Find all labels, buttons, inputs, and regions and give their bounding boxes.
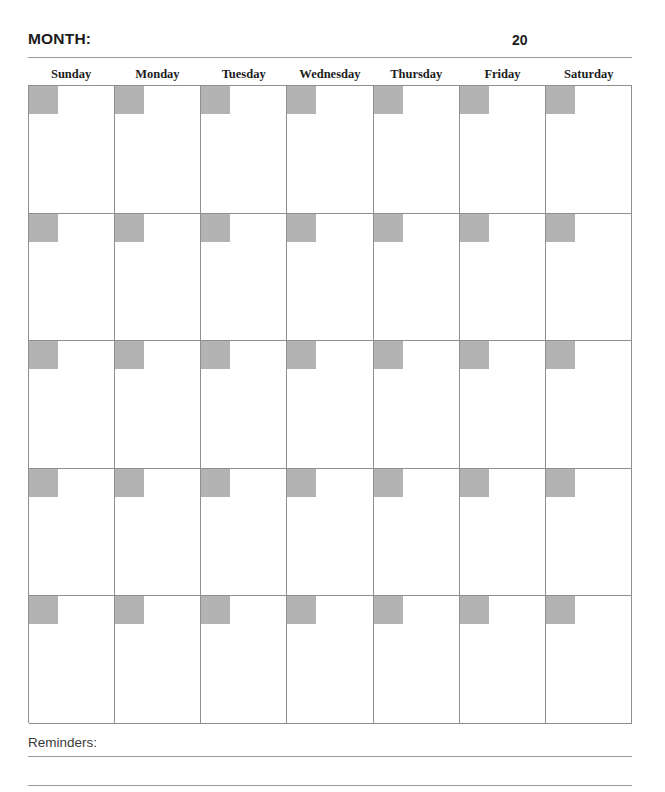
date-number-box[interactable] xyxy=(460,596,489,624)
calendar-day-cell[interactable] xyxy=(374,596,460,724)
calendar-day-cell[interactable] xyxy=(287,596,373,724)
date-number-box[interactable] xyxy=(115,596,144,624)
calendar-day-cell[interactable] xyxy=(29,214,115,342)
date-number-box[interactable] xyxy=(115,86,144,114)
date-number-box[interactable] xyxy=(374,596,403,624)
date-number-box[interactable] xyxy=(201,596,230,624)
weekday-header-friday: Friday xyxy=(459,64,545,85)
date-number-box[interactable] xyxy=(460,86,489,114)
calendar-week-row xyxy=(29,341,632,469)
date-number-box[interactable] xyxy=(374,469,403,497)
date-number-box[interactable] xyxy=(115,341,144,369)
calendar-day-cell[interactable] xyxy=(546,469,632,597)
calendar-day-cell[interactable] xyxy=(201,469,287,597)
date-number-box[interactable] xyxy=(374,341,403,369)
calendar-week-row xyxy=(29,469,632,597)
calendar-day-cell[interactable] xyxy=(115,86,201,214)
calendar-day-cell[interactable] xyxy=(460,469,546,597)
calendar-day-cell[interactable] xyxy=(374,341,460,469)
date-number-box[interactable] xyxy=(460,341,489,369)
calendar-page: MONTH: 20 SundayMondayTuesdayWednesdayTh… xyxy=(0,0,665,792)
weekday-header-row: SundayMondayTuesdayWednesdayThursdayFrid… xyxy=(28,64,632,85)
year-prefix-label: 20 xyxy=(512,32,528,48)
calendar-day-cell[interactable] xyxy=(374,214,460,342)
calendar-day-cell[interactable] xyxy=(374,86,460,214)
date-number-box[interactable] xyxy=(29,596,58,624)
date-number-box[interactable] xyxy=(115,214,144,242)
date-number-box[interactable] xyxy=(460,214,489,242)
weekday-header-wednesday: Wednesday xyxy=(287,64,373,85)
calendar-week-row xyxy=(29,596,632,724)
calendar-day-cell[interactable] xyxy=(115,469,201,597)
month-label: MONTH: xyxy=(28,30,91,48)
calendar-day-cell[interactable] xyxy=(115,341,201,469)
date-number-box[interactable] xyxy=(287,596,316,624)
date-number-box[interactable] xyxy=(201,469,230,497)
calendar-day-cell[interactable] xyxy=(287,214,373,342)
date-number-box[interactable] xyxy=(287,86,316,114)
date-number-box[interactable] xyxy=(115,469,144,497)
reminders-label: Reminders: xyxy=(28,735,97,750)
calendar-grid xyxy=(28,85,632,723)
date-number-box[interactable] xyxy=(287,469,316,497)
date-number-box[interactable] xyxy=(29,214,58,242)
date-number-box[interactable] xyxy=(287,341,316,369)
calendar-day-cell[interactable] xyxy=(460,214,546,342)
weekday-header-sunday: Sunday xyxy=(28,64,114,85)
calendar-day-cell[interactable] xyxy=(201,341,287,469)
calendar-day-cell[interactable] xyxy=(460,596,546,724)
calendar-day-cell[interactable] xyxy=(546,214,632,342)
date-number-box[interactable] xyxy=(546,341,575,369)
reminders-write-line-2[interactable] xyxy=(28,785,632,786)
weekday-header-saturday: Saturday xyxy=(546,64,632,85)
calendar-day-cell[interactable] xyxy=(460,341,546,469)
date-number-box[interactable] xyxy=(546,86,575,114)
date-number-box[interactable] xyxy=(29,86,58,114)
calendar-day-cell[interactable] xyxy=(201,596,287,724)
calendar-day-cell[interactable] xyxy=(201,86,287,214)
calendar-day-cell[interactable] xyxy=(287,341,373,469)
header-divider-rule xyxy=(28,57,632,58)
date-number-box[interactable] xyxy=(29,341,58,369)
date-number-box[interactable] xyxy=(29,469,58,497)
calendar-day-cell[interactable] xyxy=(29,469,115,597)
reminders-write-line-1[interactable] xyxy=(28,756,632,757)
date-number-box[interactable] xyxy=(201,214,230,242)
calendar-day-cell[interactable] xyxy=(546,341,632,469)
date-number-box[interactable] xyxy=(460,469,489,497)
calendar-week-row xyxy=(29,214,632,342)
date-number-box[interactable] xyxy=(546,596,575,624)
date-number-box[interactable] xyxy=(546,214,575,242)
calendar-week-row xyxy=(29,86,632,214)
date-number-box[interactable] xyxy=(374,86,403,114)
date-number-box[interactable] xyxy=(287,214,316,242)
calendar-day-cell[interactable] xyxy=(115,214,201,342)
calendar-day-cell[interactable] xyxy=(29,596,115,724)
calendar-day-cell[interactable] xyxy=(460,86,546,214)
date-number-box[interactable] xyxy=(546,469,575,497)
calendar-day-cell[interactable] xyxy=(546,86,632,214)
weekday-header-tuesday: Tuesday xyxy=(201,64,287,85)
date-number-box[interactable] xyxy=(374,214,403,242)
weekday-header-monday: Monday xyxy=(114,64,200,85)
calendar-day-cell[interactable] xyxy=(287,469,373,597)
weekday-header-thursday: Thursday xyxy=(373,64,459,85)
calendar-day-cell[interactable] xyxy=(29,86,115,214)
calendar-header: MONTH: 20 xyxy=(28,30,632,60)
date-number-box[interactable] xyxy=(201,86,230,114)
calendar-day-cell[interactable] xyxy=(201,214,287,342)
calendar-day-cell[interactable] xyxy=(287,86,373,214)
calendar-day-cell[interactable] xyxy=(29,341,115,469)
calendar-day-cell[interactable] xyxy=(546,596,632,724)
calendar-day-cell[interactable] xyxy=(374,469,460,597)
date-number-box[interactable] xyxy=(201,341,230,369)
calendar-day-cell[interactable] xyxy=(115,596,201,724)
